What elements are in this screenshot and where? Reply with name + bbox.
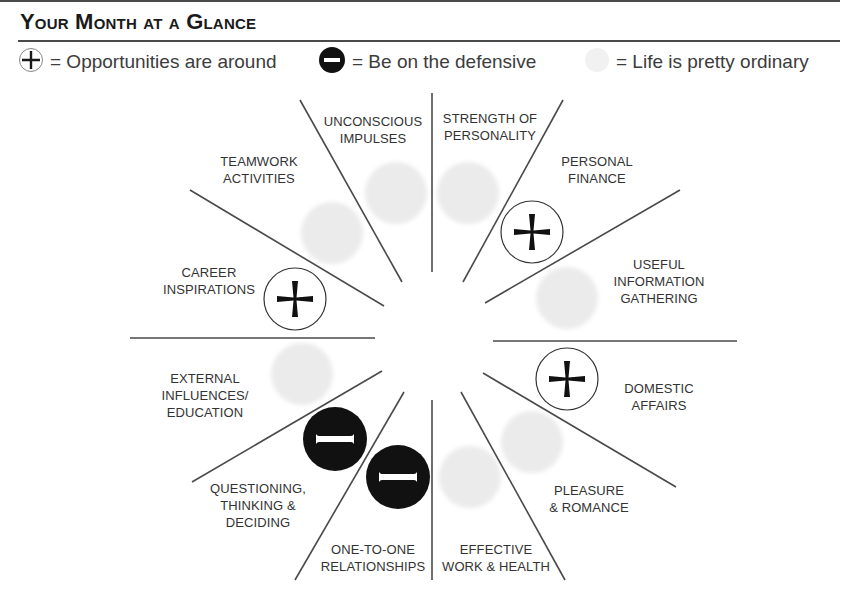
- defensive-marker-questioning: [303, 407, 367, 475]
- maltese-cross-icon: [500, 200, 564, 264]
- sector-label-domestic-affairs: DOMESTIC AFFAIRS: [624, 380, 693, 414]
- sector-label-teamwork-activities: TEAMWORK ACTIVITIES: [220, 153, 297, 187]
- opportunity-marker-domestic-affairs: [535, 347, 599, 415]
- sector-label-external-influences-education: EXTERNAL INFLUENCES/ EDUCATION: [161, 370, 248, 421]
- maltese-cross-icon: [535, 347, 599, 411]
- opportunity-marker-personal-finance: [500, 200, 564, 268]
- sector-label-strength-of-personality: STRENGTH OF PERSONALITY: [443, 110, 537, 144]
- sector-label-personal-finance: PERSONAL FINANCE: [561, 153, 633, 187]
- sector-label-useful-information-gathering: USEFUL INFORMATION GATHERING: [613, 256, 704, 307]
- defensive-marker-one-to-one: [366, 445, 430, 513]
- sector-label-unconscious-impulses: UNCONSCIOUS IMPULSES: [324, 113, 423, 147]
- minus-icon: [303, 407, 367, 471]
- sector-label-career-inspirations: CAREER INSPIRATIONS: [163, 264, 255, 298]
- opportunity-marker-career-inspirations: [263, 267, 327, 335]
- maltese-cross-icon: [263, 267, 327, 331]
- sector-label-one-to-one-relationships: ONE-TO-ONE RELATIONSHIPS: [321, 541, 425, 575]
- minus-icon: [366, 445, 430, 509]
- sector-label-questioning-thinking-deciding: QUESTIONING, THINKING & DECIDING: [210, 480, 306, 531]
- sector-label-effective-work-health: EFFECTIVE WORK & HEALTH: [442, 541, 550, 575]
- sector-label-pleasure-romance: PLEASURE & ROMANCE: [549, 482, 629, 516]
